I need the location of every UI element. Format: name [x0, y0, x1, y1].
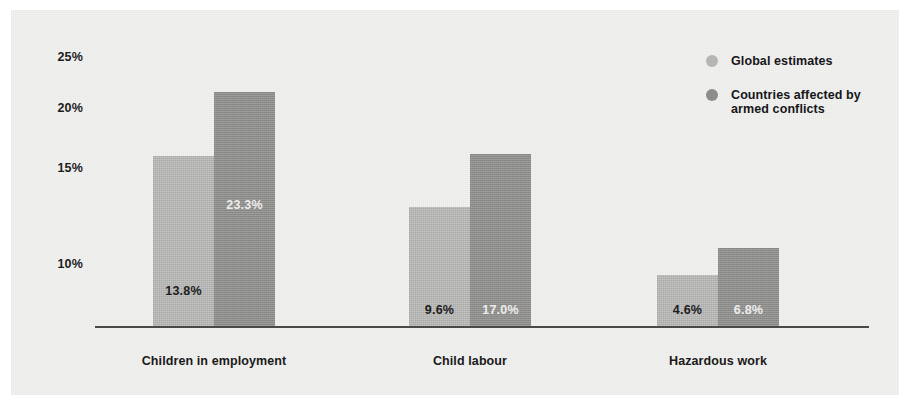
legend-label-global-estimates: Global estimates	[731, 54, 833, 68]
bar-global-estimates-children-in-employment[interactable]: 13.8%	[153, 156, 214, 326]
bar-conflict-countries-child-labour[interactable]: 17.0%	[470, 154, 531, 326]
bar-value-label: 13.8%	[153, 284, 214, 298]
bar-value-label: 9.6%	[409, 303, 470, 317]
bar-group-children-in-employment: 13.8% 23.3%	[153, 76, 275, 326]
y-tick-label-10: 10%	[23, 257, 83, 271]
legend-swatch-circle-icon	[706, 55, 718, 67]
legend-item-conflict-countries[interactable]: Countries affected by armed conflicts	[706, 88, 906, 116]
chart-legend: Global estimates Countries affected by a…	[706, 54, 906, 136]
bar-conflict-countries-children-in-employment[interactable]: 23.3%	[214, 92, 275, 326]
legend-label-conflict-countries: Countries affected by armed conflicts	[731, 88, 891, 116]
y-tick-label-15: 15%	[23, 161, 83, 175]
y-tick-label-25: 25%	[23, 50, 83, 64]
category-label-child-labour: Child labour	[349, 354, 591, 368]
bar-value-label: 4.6%	[657, 303, 718, 317]
bar-texture	[657, 275, 718, 326]
bar-value-label: 17.0%	[470, 303, 531, 317]
chart-panel: 25% 20% 15% 10% 13.8% 23.3% Children in …	[11, 10, 899, 395]
legend-swatch-circle-icon	[706, 89, 718, 101]
bar-global-estimates-child-labour[interactable]: 9.6%	[409, 207, 470, 326]
bar-chart: 25% 20% 15% 10% 13.8% 23.3% Children in …	[0, 0, 910, 405]
x-axis-line	[95, 326, 869, 328]
bar-texture	[153, 156, 214, 326]
bar-conflict-countries-hazardous-work[interactable]: 6.8%	[718, 248, 779, 326]
bar-group-child-labour: 9.6% 17.0%	[409, 76, 531, 326]
bar-value-label: 6.8%	[718, 303, 779, 317]
bar-global-estimates-hazardous-work[interactable]: 4.6%	[657, 275, 718, 326]
legend-item-global-estimates[interactable]: Global estimates	[706, 54, 906, 68]
category-label-hazardous-work: Hazardous work	[597, 354, 839, 368]
category-label-children-in-employment: Children in employment	[93, 354, 335, 368]
y-tick-label-20: 20%	[23, 101, 83, 115]
bar-texture	[470, 154, 531, 326]
bar-value-label: 23.3%	[214, 198, 275, 212]
